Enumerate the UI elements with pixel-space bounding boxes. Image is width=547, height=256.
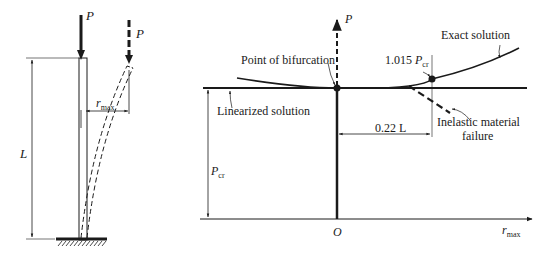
pcr-label: Pcr [211, 165, 225, 180]
critical-value-label: 1.015 Pcr [385, 54, 429, 69]
exact-solution-label: Exact solution [441, 29, 510, 41]
linearized-label: Linearized solution [217, 105, 310, 117]
inelastic-failure-branch [409, 86, 450, 113]
length-label: L [20, 147, 27, 160]
column-figure [26, 15, 133, 246]
deflected-load-label: P [136, 27, 144, 40]
bifurcation-label: Point of bifurcation [241, 54, 335, 66]
deflected-shape [81, 66, 127, 238]
bifurcation-point [334, 85, 341, 92]
column [79, 58, 87, 240]
inelastic-label-line2: failure [462, 130, 493, 142]
load-label: P [86, 9, 94, 22]
x-axis-label: rmax [502, 224, 520, 239]
origin-label: O [333, 226, 342, 238]
inelastic-label-line1: Inelastic material [437, 116, 520, 128]
deflection-label: rmax [96, 97, 114, 112]
y-axis-label: P [345, 13, 352, 25]
offset-label: 0.22 L [375, 122, 406, 134]
